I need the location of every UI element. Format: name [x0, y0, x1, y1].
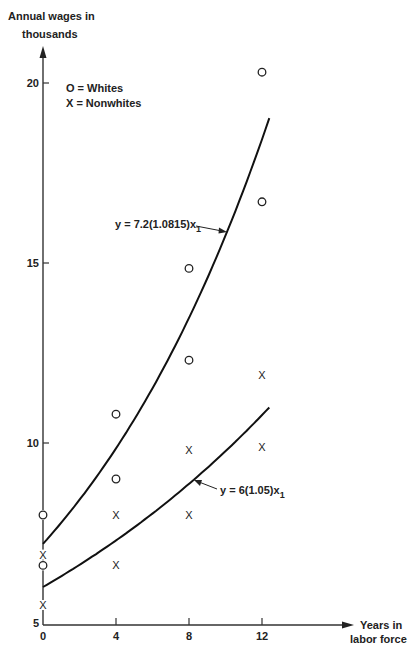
y-tick-label: 5: [33, 617, 39, 629]
x-axis-arrow-icon: [342, 622, 354, 629]
x-tick-label: 8: [186, 630, 192, 642]
axes: [40, 46, 355, 629]
x-axis-label-line2: labor force: [350, 633, 407, 645]
nonwhites-point: X: [39, 599, 47, 611]
nonwhites-equation-subscript: 1: [280, 490, 285, 500]
x-tick-label: 4: [113, 630, 120, 642]
axis-ticks: 048125101520: [27, 77, 268, 642]
legend-nonwhites: X = Nonwhites: [66, 97, 142, 109]
svg-text:y = 7.2(1.0815)x1: y = 7.2(1.0815)x1: [115, 218, 201, 234]
y-axis-label-line2: thousands: [22, 28, 78, 40]
nonwhites-point: X: [258, 369, 266, 381]
y-tick-label: 20: [27, 77, 39, 89]
nonwhites-point: X: [112, 559, 120, 571]
nonwhites-fit-curve: [43, 408, 269, 588]
nonwhites-equation-pointer: [199, 482, 217, 489]
nonwhites-point: X: [39, 549, 47, 561]
y-tick-label: 10: [27, 437, 39, 449]
x-tick-label: 0: [40, 630, 46, 642]
whites-fit-curve: [43, 118, 269, 544]
nonwhites-point: X: [258, 441, 266, 453]
nonwhites-point: X: [112, 509, 120, 521]
x-axis-label-line1: Years in: [360, 619, 402, 631]
nonwhites-point: X: [185, 509, 193, 521]
wage-growth-chart: Annual wages in thousands 048125101520 X…: [0, 0, 417, 660]
whites-equation-subscript: 1: [196, 224, 201, 234]
y-axis-arrow-icon: [40, 46, 47, 58]
x-tick-label: 12: [256, 630, 268, 642]
nonwhites-pointer-arrow-icon: [194, 480, 202, 486]
whites-equation-text: y = 7.2(1.0815)x: [115, 218, 197, 230]
nonwhites-equation-annotation: y = 6(1.05)x1: [194, 480, 285, 500]
legend: O = Whites X = Nonwhites: [66, 82, 142, 109]
nonwhites-point: X: [185, 444, 193, 456]
whites-equation-annotation: y = 7.2(1.0815)x1: [115, 218, 227, 234]
y-axis-label-line1: Annual wages in: [8, 10, 95, 22]
y-tick-label: 15: [27, 257, 39, 269]
data-points: XXXXXXXX: [38, 67, 267, 611]
nonwhites-equation-text: y = 6(1.05)x: [220, 484, 281, 496]
svg-text:y = 6(1.05)x1: y = 6(1.05)x1: [220, 484, 285, 500]
legend-whites: O = Whites: [66, 82, 123, 94]
